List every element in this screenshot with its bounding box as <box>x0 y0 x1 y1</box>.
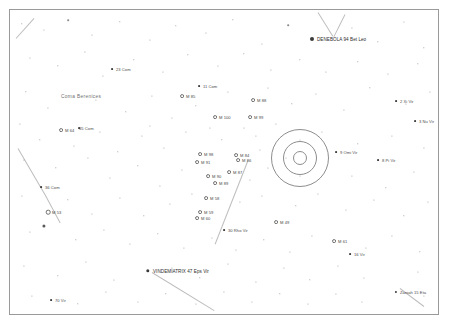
field-star <box>21 195 22 196</box>
field-star <box>102 75 103 76</box>
vir-70-marker[interactable] <box>50 299 52 301</box>
field-star <box>317 193 318 194</box>
m59-label: M 59 <box>204 210 213 215</box>
line-left-upper <box>18 148 47 196</box>
m87-marker[interactable] <box>227 170 231 174</box>
m59-marker[interactable] <box>198 210 202 214</box>
field-star <box>157 233 158 234</box>
field-star <box>423 47 424 48</box>
coma-berenices-label: Coma Berenices <box>61 94 101 99</box>
m90-marker[interactable] <box>206 174 210 178</box>
m91-marker[interactable] <box>195 160 199 164</box>
field-star <box>103 229 104 230</box>
field-star <box>42 224 45 227</box>
field-star <box>105 291 106 292</box>
field-star <box>221 139 222 140</box>
field-star <box>423 147 424 148</box>
field-star <box>149 125 150 126</box>
m84-m86-group-marker[interactable] <box>234 153 238 157</box>
field-star <box>387 73 388 74</box>
m53-marker[interactable] <box>46 210 51 215</box>
field-star <box>337 265 338 266</box>
field-star <box>403 215 404 216</box>
field-star <box>162 71 163 72</box>
field-star <box>289 251 290 252</box>
m98-marker[interactable] <box>198 152 202 156</box>
line-upper-right <box>318 12 334 37</box>
vir-16-marker[interactable] <box>349 253 351 255</box>
m85-label: M 85 <box>186 94 195 99</box>
field-star <box>109 177 110 178</box>
m88-label: M 88 <box>257 98 266 103</box>
field-star <box>67 19 69 21</box>
rho-vir-30-marker[interactable] <box>223 229 225 231</box>
m88-marker[interactable] <box>251 98 255 102</box>
field-star <box>309 279 310 280</box>
field-star <box>137 165 138 166</box>
field-star <box>345 209 346 210</box>
vindemiatrix-marker[interactable] <box>146 269 149 272</box>
m64-label: M 64 <box>65 128 74 133</box>
com-23-marker[interactable] <box>111 68 113 70</box>
field-star <box>255 281 256 282</box>
m100-marker[interactable] <box>213 115 217 119</box>
m99-marker[interactable] <box>248 115 252 119</box>
field-star <box>217 65 218 66</box>
zaniah-marker[interactable] <box>395 291 397 293</box>
vir-16-label: 16 Vir <box>354 252 365 257</box>
field-star <box>84 51 85 52</box>
m99-label: M 99 <box>254 115 263 120</box>
com-36-label: 36 Com <box>45 185 60 190</box>
field-star <box>175 25 176 26</box>
m89-marker[interactable] <box>213 181 217 185</box>
m87-label: M 87 <box>233 170 242 175</box>
field-star <box>259 149 260 150</box>
com-36-marker[interactable] <box>40 186 42 188</box>
field-star <box>361 301 362 302</box>
field-star <box>183 247 184 248</box>
nu-vir-3-marker[interactable] <box>414 120 416 122</box>
field-star <box>255 135 256 136</box>
m60-label: M 60 <box>201 216 210 221</box>
field-star <box>369 87 370 88</box>
m60-marker[interactable] <box>195 216 199 220</box>
field-star <box>19 123 20 124</box>
field-star <box>373 199 374 200</box>
field-star <box>57 275 58 276</box>
field-star <box>73 145 74 146</box>
field-star <box>169 203 170 204</box>
field-star <box>307 303 308 304</box>
m91-label: M 91 <box>201 160 210 165</box>
com-35-label: 35 Com <box>79 126 94 131</box>
com-11-label: 11 Com <box>203 84 217 89</box>
m89-label: M 89 <box>219 181 228 186</box>
field-star <box>57 65 58 66</box>
denebola-marker[interactable] <box>310 37 314 41</box>
field-star <box>417 63 418 64</box>
field-star <box>119 21 120 22</box>
nu-vir-3-label: 3 Nu Vir <box>419 119 434 124</box>
field-star <box>151 95 152 96</box>
xi-vir-2-marker[interactable] <box>395 100 397 102</box>
m61-marker[interactable] <box>332 239 336 243</box>
m85-marker[interactable] <box>180 94 184 98</box>
m58-marker[interactable] <box>204 196 208 200</box>
com-11-marker[interactable] <box>198 85 200 87</box>
field-star <box>31 295 32 296</box>
field-star <box>267 87 268 88</box>
m64-marker[interactable] <box>59 128 63 132</box>
field-star <box>195 303 196 304</box>
field-star <box>279 293 280 294</box>
m90-label: M 90 <box>212 174 221 179</box>
field-star <box>357 143 358 144</box>
pi-vir-8-label: 8 Pi Vir <box>382 158 396 163</box>
field-star <box>209 127 210 128</box>
field-star <box>405 103 406 104</box>
chart-plot-area: DENEBOLA 94 Bet Leo23 ComComa Berenices1… <box>0 0 450 326</box>
m49-marker[interactable] <box>274 220 278 224</box>
m86-marker[interactable] <box>236 158 240 162</box>
field-star <box>315 93 316 94</box>
omi-vir-9-marker[interactable] <box>335 151 337 153</box>
pi-vir-8-marker[interactable] <box>377 159 379 161</box>
field-star <box>125 111 126 112</box>
